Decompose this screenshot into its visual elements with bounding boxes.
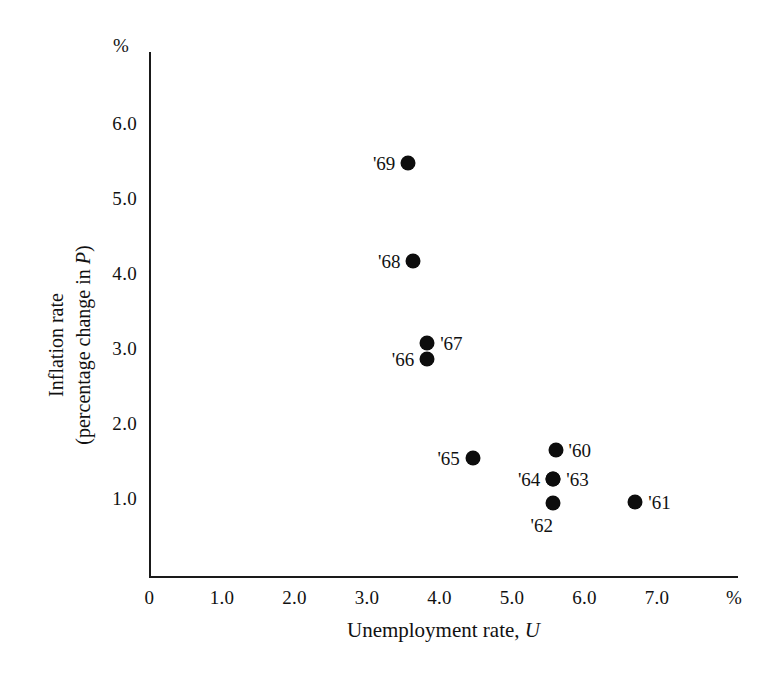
data-point-label: '68 (378, 252, 400, 271)
data-point-label: '64 (518, 470, 540, 489)
phillips-curve-scatter-chart: % % 1.02.03.04.05.06.0 01.02.03.04.05.06… (0, 0, 780, 675)
data-point-label: '62 (531, 516, 553, 535)
data-point-label: '69 (373, 153, 395, 172)
data-point-label: '66 (392, 350, 414, 369)
data-point-label: '63 (566, 470, 588, 489)
data-point-marker[interactable] (420, 335, 435, 350)
data-point-label: '65 (437, 449, 459, 468)
data-point-label: '67 (440, 333, 462, 352)
data-point-marker[interactable] (628, 494, 643, 509)
data-point-label: '60 (569, 441, 591, 460)
data-point-marker[interactable] (548, 443, 563, 458)
data-point-marker[interactable] (406, 254, 421, 269)
data-point-marker[interactable] (465, 451, 480, 466)
data-point-marker[interactable] (420, 352, 435, 367)
data-point-marker[interactable] (401, 155, 416, 170)
data-point-marker[interactable] (546, 472, 561, 487)
data-point-marker[interactable] (545, 496, 560, 511)
plot-area: '69'68'67'66'65'60'63'64'62'61 (0, 0, 780, 675)
data-point-label: '61 (648, 492, 670, 511)
